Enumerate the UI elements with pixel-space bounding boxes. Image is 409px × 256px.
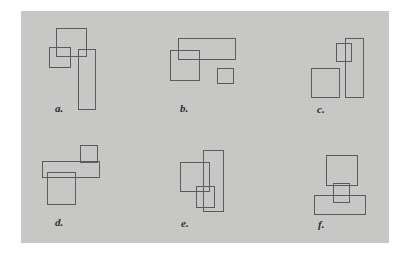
panel-label-a: a. (55, 103, 63, 114)
panel-b-left-rect (170, 50, 200, 81)
panel-label-b: b. (180, 103, 188, 114)
panel-c-left-square (311, 68, 340, 98)
panel-label-f: f. (318, 219, 324, 230)
panel-e-small-square (196, 186, 215, 208)
panel-label-e: e. (181, 218, 189, 229)
panel-c-small-square (336, 43, 352, 62)
figure-plate: a.b.c.d.e.f. (21, 11, 389, 243)
panel-b-small-square (217, 68, 234, 84)
figure-root: a.b.c.d.e.f. (0, 0, 409, 256)
panel-a-small-square (49, 47, 71, 68)
panel-f-top-square (326, 155, 358, 186)
panel-f-small-square (333, 183, 350, 203)
panel-d-bottom-square (47, 172, 76, 205)
panel-label-c: c. (317, 104, 325, 115)
panel-label-d: d. (55, 217, 63, 228)
panel-a-tall-rect (78, 49, 96, 110)
